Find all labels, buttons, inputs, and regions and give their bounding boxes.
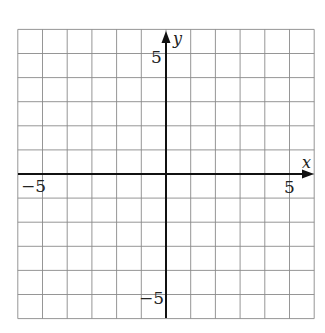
x-axis-label: x: [302, 153, 311, 172]
x-tick-label-neg5: −5: [21, 176, 46, 196]
y-tick-label-neg5: −5: [139, 288, 164, 308]
coordinate-grid-chart: y x 5 −5 −5 5: [0, 0, 325, 333]
x-tick-label-5: 5: [284, 177, 295, 197]
y-axis-label: y: [172, 29, 183, 48]
y-axis-arrow-icon: [162, 31, 171, 43]
y-tick-label-5: 5: [151, 47, 162, 67]
